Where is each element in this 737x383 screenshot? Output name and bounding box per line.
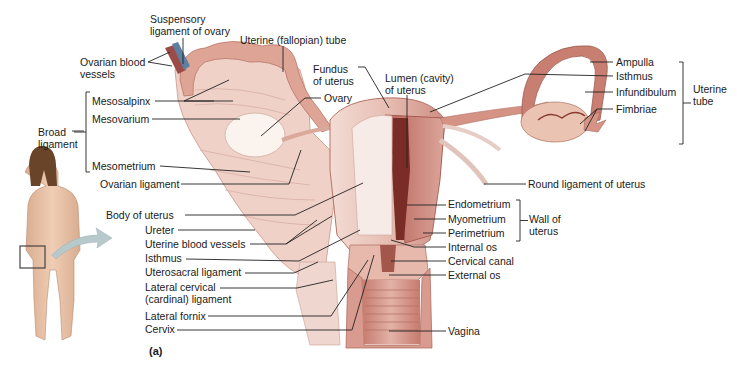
label-internal-os: Internal os xyxy=(448,241,497,253)
label-mesosalpinx: Mesosalpinx xyxy=(92,95,150,107)
label-endometrium: Endometrium xyxy=(448,198,510,210)
leader-line-ovarian-blood-vessels xyxy=(148,62,172,66)
label-lateral-cervical-ligament: Lateral cervical (cardinal) ligament xyxy=(145,281,231,305)
label-suspensory-ligament: Suspensory ligament of ovary xyxy=(150,13,230,37)
label-lateral-fornix: Lateral fornix xyxy=(145,310,206,322)
wall-of-uterus-bracket xyxy=(516,200,520,241)
label-vagina: Vagina xyxy=(448,325,480,337)
round-ligament-art xyxy=(440,140,486,184)
label-external-os: External os xyxy=(448,269,501,281)
label-mesovarium: Mesovarium xyxy=(92,113,149,125)
right-ovary xyxy=(521,102,589,142)
label-round-ligament: Round ligament of uterus xyxy=(528,178,645,190)
label-fimbriae: Fimbriae xyxy=(616,103,657,115)
label-isthmus-tube: Isthmus xyxy=(616,70,653,82)
leader-line-ovarian-blood-vessels xyxy=(148,52,170,62)
label-cervical-canal: Cervical canal xyxy=(448,255,514,267)
left-ovary xyxy=(225,113,285,157)
label-uterine-blood-vessels: Uterine blood vessels xyxy=(145,238,245,250)
label-ovary: Ovary xyxy=(324,92,352,104)
label-wall-of-uterus: Wall of uterus xyxy=(529,213,561,237)
label-uterosacral-ligament: Uterosacral ligament xyxy=(145,266,241,278)
label-fundus: Fundus of uterus xyxy=(313,63,354,87)
label-ovarian-blood-vessels: Ovarian blood vessels xyxy=(80,56,145,80)
label-body-of-uterus: Body of uterus xyxy=(106,209,174,221)
label-uterine-tube-label: Uterine (fallopian) tube xyxy=(240,34,346,46)
label-ureter: Ureter xyxy=(145,224,174,236)
uterine-tube-bracket xyxy=(679,62,683,144)
label-uterine-tube-bracket: Uterine tube xyxy=(693,83,727,107)
label-infundibulum: Infundibulum xyxy=(616,86,676,98)
label-cervix: Cervix xyxy=(145,323,175,335)
label-mesometrium: Mesometrium xyxy=(92,160,156,172)
label-broad-ligament: Broad ligament xyxy=(38,126,78,150)
label-isthmus-uterus: Isthmus xyxy=(145,252,182,264)
label-lumen: Lumen (cavity) of uterus xyxy=(385,72,454,96)
label-ampulla: Ampulla xyxy=(616,56,654,68)
label-perimetrium: Perimetrium xyxy=(448,227,505,239)
label-ovarian-ligament: Ovarian ligament xyxy=(100,178,179,190)
female-reproductive-diagram: Suspensory ligament of ovaryOvarian bloo… xyxy=(0,0,737,383)
panel-label: (a) xyxy=(149,345,162,357)
broad-ligament-bracket xyxy=(86,92,90,172)
label-myometrium: Myometrium xyxy=(448,213,506,225)
